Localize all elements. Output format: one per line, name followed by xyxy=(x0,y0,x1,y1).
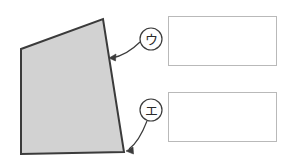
marker-u-leader-line xyxy=(112,42,140,58)
marker-e-label: エ xyxy=(145,103,158,118)
marker-e-leader-line xyxy=(129,121,147,149)
answer-box-lower[interactable] xyxy=(168,92,277,142)
answer-box-upper[interactable] xyxy=(168,16,277,66)
marker-e-group[interactable]: エ xyxy=(126,99,162,154)
geometry-diagram: ウ エ xyxy=(0,0,293,167)
marker-u-label: ウ xyxy=(145,32,158,47)
marker-u-group[interactable]: ウ xyxy=(109,28,162,61)
quadrilateral-shape xyxy=(21,19,124,154)
